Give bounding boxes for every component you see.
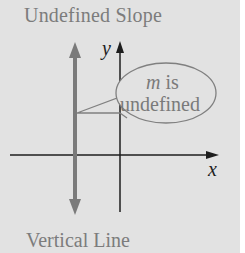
callout-line-1-rest: is <box>160 71 179 93</box>
vertical-line-down-arrow-icon <box>69 199 81 215</box>
slope-variable: m <box>146 71 160 93</box>
callout-oval: m is undefined <box>116 63 216 123</box>
figure-caption: Vertical Line <box>26 229 130 252</box>
coordinate-plane: y x m is undefined <box>0 0 240 253</box>
callout-line-2: undefined <box>120 93 200 115</box>
vertical-line <box>69 42 81 215</box>
y-axis-arrow-icon <box>116 41 124 53</box>
y-axis: y <box>100 37 124 212</box>
x-axis-label: x <box>207 158 217 180</box>
x-axis: x <box>10 151 219 180</box>
callout-line-1: m is <box>146 71 179 93</box>
y-axis-label: y <box>100 37 111 60</box>
figure-panel: Undefined Slope y x m is und <box>0 0 240 253</box>
vertical-line-up-arrow-icon <box>69 42 81 58</box>
